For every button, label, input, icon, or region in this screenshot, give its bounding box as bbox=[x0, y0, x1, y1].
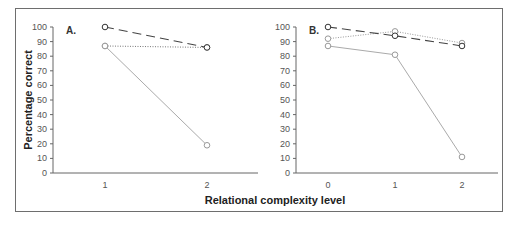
y-tick-label: 30 bbox=[280, 124, 290, 134]
x-axis-title: Relational complexity level bbox=[205, 194, 346, 206]
x-tick-label: 1 bbox=[392, 180, 397, 190]
y-axis-title: Percentage correct bbox=[22, 50, 34, 150]
y-tick-label: 40 bbox=[280, 110, 290, 120]
x-tick-label: 2 bbox=[459, 180, 464, 190]
x-tick-label: 2 bbox=[204, 180, 209, 190]
series-line-dotted bbox=[105, 46, 207, 47]
x-tick-label: 1 bbox=[102, 180, 107, 190]
data-point-marker bbox=[459, 43, 465, 49]
y-tick-label: 40 bbox=[37, 110, 47, 120]
data-point-marker bbox=[204, 45, 210, 51]
y-tick-label: 90 bbox=[37, 37, 47, 47]
y-tick-label: 20 bbox=[280, 139, 290, 149]
y-tick-label: 10 bbox=[280, 153, 290, 163]
line-chart: 0102030405060708090100120102030405060708… bbox=[0, 0, 517, 226]
y-tick-label: 70 bbox=[37, 66, 47, 76]
y-tick-label: 90 bbox=[280, 37, 290, 47]
data-point-marker bbox=[102, 24, 108, 30]
y-tick-label: 0 bbox=[42, 168, 47, 178]
panel-b-label: B. bbox=[309, 25, 319, 36]
y-tick-label: 80 bbox=[280, 51, 290, 61]
y-tick-label: 10 bbox=[37, 153, 47, 163]
y-tick-label: 20 bbox=[37, 139, 47, 149]
data-point-marker bbox=[392, 33, 398, 39]
y-tick-label: 50 bbox=[37, 95, 47, 105]
y-tick-label: 50 bbox=[280, 95, 290, 105]
y-tick-label: 60 bbox=[37, 80, 47, 90]
y-tick-label: 100 bbox=[275, 22, 290, 32]
y-tick-label: 70 bbox=[280, 66, 290, 76]
y-tick-label: 60 bbox=[280, 80, 290, 90]
y-tick-label: 80 bbox=[37, 51, 47, 61]
y-tick-label: 0 bbox=[285, 168, 290, 178]
panel-b-series bbox=[325, 24, 465, 160]
data-point-marker bbox=[102, 43, 108, 49]
panel-a-series bbox=[102, 24, 210, 148]
data-point-marker bbox=[325, 24, 331, 30]
panel-a-label: A. bbox=[66, 25, 76, 36]
data-point-marker bbox=[459, 154, 465, 160]
series-line-dashed bbox=[105, 27, 207, 47]
data-point-marker bbox=[392, 52, 398, 58]
data-point-marker bbox=[325, 43, 331, 49]
data-point-marker bbox=[325, 36, 331, 42]
series-line-solid bbox=[105, 46, 207, 145]
data-point-marker bbox=[204, 142, 210, 148]
x-tick-label: 0 bbox=[325, 180, 330, 190]
y-tick-label: 100 bbox=[32, 22, 47, 32]
panel-a: 010203040506070809010012 bbox=[32, 22, 258, 190]
series-line-solid bbox=[328, 46, 462, 157]
y-tick-label: 30 bbox=[37, 124, 47, 134]
